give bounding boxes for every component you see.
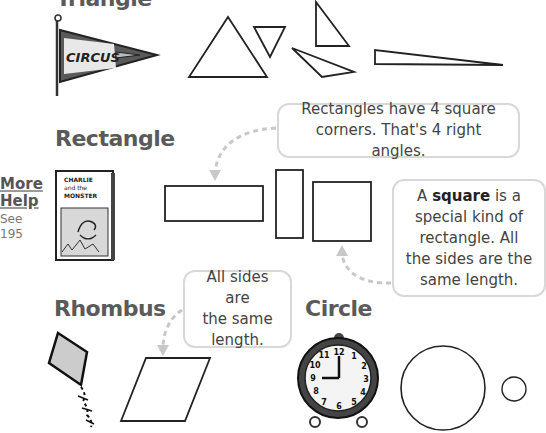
svg-text:3: 3	[363, 375, 369, 384]
square	[313, 182, 371, 241]
term-square: square	[432, 187, 490, 205]
svg-text:9: 9	[310, 374, 316, 383]
heading-rhombus: Rhombus	[54, 298, 166, 320]
arrow-icon	[209, 128, 276, 181]
callout-text-line: corners. That's 4 right angles.	[287, 120, 510, 162]
pennant-text: CIRCUS	[66, 50, 120, 65]
large-circle	[401, 346, 485, 430]
heading-rectangle: Rectangle	[55, 128, 175, 150]
circus-pennant-illustration: CIRCUS	[55, 15, 157, 96]
tall-rectangle	[276, 170, 303, 238]
callout-text-line: rectangle. All	[406, 228, 532, 249]
svg-text:5: 5	[351, 398, 357, 407]
more-help-see-label: See	[0, 212, 44, 227]
callout-rhombus-definition: All sides are the same length.	[183, 270, 292, 348]
callout-text-line: Rectangles have 4 square	[287, 99, 510, 120]
callout-text-line: A square is a	[406, 186, 532, 207]
rectangle-examples	[165, 170, 371, 241]
svg-text:2: 2	[361, 362, 367, 371]
kite-illustration	[49, 333, 94, 427]
equilateral-triangle	[189, 17, 267, 77]
right-triangle	[316, 2, 349, 46]
svg-text:1: 1	[351, 352, 357, 361]
callout-text-line: All sides are	[193, 267, 282, 309]
svg-text:8: 8	[313, 387, 319, 396]
heading-circle: Circle	[305, 298, 372, 320]
triangle-examples	[189, 2, 503, 77]
small-circle	[502, 377, 526, 401]
svg-text:6: 6	[336, 402, 342, 411]
more-help-title-line1: More	[0, 176, 44, 193]
svg-text:10: 10	[309, 361, 321, 370]
arrow-icon	[336, 245, 391, 283]
rhombus-shape	[121, 358, 210, 421]
wide-rectangle	[165, 186, 263, 221]
thin-triangle	[375, 50, 503, 65]
obtuse-triangle	[292, 48, 354, 77]
svg-text:4: 4	[360, 388, 366, 397]
alarm-clock-illustration: 12 1 2 3 4 5 6 7 8 9 10 11	[298, 333, 378, 427]
heading-triangle: Triangle	[56, 0, 152, 10]
more-help-link[interactable]: More Help See 195	[0, 176, 44, 242]
callout-text-line: the same	[193, 309, 282, 330]
callout-text-line: same length.	[406, 270, 532, 291]
callout-text-line: special kind of	[406, 207, 532, 228]
callout-square-definition: A square is a special kind of rectangle.…	[392, 179, 546, 297]
inverted-triangle	[254, 27, 285, 57]
svg-text:MONSTER: MONSTER	[64, 192, 98, 199]
svg-text:12: 12	[333, 348, 344, 357]
book-illustration: CHARLIE and the MONSTER	[56, 171, 115, 260]
callout-text-line: the sides are the	[406, 249, 532, 270]
more-help-page-number: 195	[0, 227, 44, 242]
callout-rectangle-definition: Rectangles have 4 square corners. That's…	[277, 103, 520, 158]
svg-text:7: 7	[321, 398, 327, 407]
svg-text:CHARLIE: CHARLIE	[64, 176, 93, 183]
svg-text:11: 11	[318, 351, 330, 360]
more-help-title-line2: Help	[0, 193, 44, 210]
callout-text-line: length.	[193, 330, 282, 351]
svg-text:and the: and the	[64, 184, 87, 191]
